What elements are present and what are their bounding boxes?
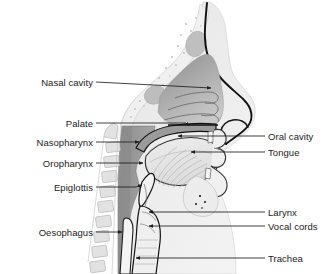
label-vocal-cords: Vocal cords (268, 221, 318, 232)
label-epiglottis: Epiglottis (0, 182, 93, 193)
label-oral-cavity: Oral cavity (268, 131, 313, 142)
label-oropharynx: Oropharynx (0, 158, 93, 169)
label-larynx: Larynx (268, 207, 297, 218)
label-nasopharynx: Nasopharynx (0, 137, 93, 148)
label-oesophagus: Oesophagus (0, 227, 93, 238)
label-trachea: Trachea (268, 253, 303, 264)
label-tongue: Tongue (268, 147, 299, 158)
label-nasal-cavity: Nasal cavity (0, 77, 93, 88)
label-palate: Palate (0, 118, 93, 129)
